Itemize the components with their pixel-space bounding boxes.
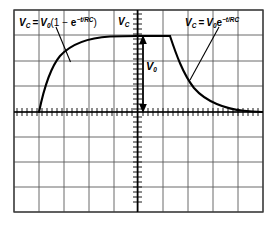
amplitude-label: V0 [146, 60, 157, 73]
charge-formula-v0: V [40, 17, 47, 28]
discharge-formula-equals: = [196, 17, 206, 28]
charge-formula-label: VC=V0(1 − e−t/RC) [19, 16, 97, 29]
vertical-axis-label-sub: C [125, 21, 130, 28]
charge-formula-open-paren: (1 [51, 17, 60, 28]
charge-formula-exponent: −t/RC [76, 16, 93, 23]
capacitor-voltage-chart [0, 0, 278, 227]
amplitude-label-sub: 0 [153, 66, 157, 73]
charge-formula-lhs: V [19, 17, 26, 28]
discharge-formula-v0: V [206, 17, 213, 28]
charge-formula-minus: − [62, 17, 68, 28]
charge-formula-equals: = [30, 17, 40, 28]
discharge-formula-label: VC=V0e−t/RC [185, 16, 239, 29]
vertical-axis-label-text: V [118, 16, 125, 27]
discharge-formula-lhs: V [185, 17, 192, 28]
charge-formula-close-paren: ) [94, 17, 97, 28]
vertical-axis-label: VC [118, 16, 129, 28]
discharge-formula-exponent: −t/RC [222, 16, 239, 23]
